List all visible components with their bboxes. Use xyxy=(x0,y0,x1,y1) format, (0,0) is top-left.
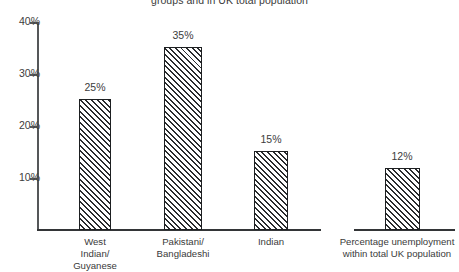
x-axis-category-label: Indian xyxy=(231,236,311,248)
bar-value-label: 25% xyxy=(65,82,125,93)
category-label-line: Indian xyxy=(231,236,311,248)
y-axis-tick-20: 20% xyxy=(0,126,40,128)
bar-chart: groups and in UK total population 40% 30… xyxy=(0,0,459,272)
category-label-line: Pakistani/ xyxy=(137,236,229,248)
bar-value-label: 12% xyxy=(372,151,432,162)
category-label-line: Percentage unemployment xyxy=(336,236,458,248)
x-axis-category-label: Percentage unemployment within total UK … xyxy=(336,236,458,260)
bar-indian[interactable] xyxy=(254,151,288,230)
x-axis-category-label: Pakistani/ Bangladeshi xyxy=(137,236,229,260)
category-label-line: Bangladeshi xyxy=(137,248,229,260)
category-label-line: within total UK population xyxy=(336,248,458,260)
bar-uk-total-population[interactable] xyxy=(385,168,420,230)
bar-pakistani-bangladeshi[interactable] xyxy=(164,47,202,230)
bar-value-label: 35% xyxy=(153,30,213,41)
bar-west-indian-guyanese[interactable] xyxy=(79,99,111,230)
x-axis-category-label: West Indian/ Guyanese xyxy=(50,236,140,271)
y-axis-tick-label: 40% xyxy=(12,16,40,26)
y-axis-tick-30: 30% xyxy=(0,74,40,76)
y-axis-tick-10: 10% xyxy=(0,178,40,180)
category-label-line: West xyxy=(50,236,140,248)
category-label-line: Indian/ xyxy=(50,248,140,260)
y-axis-tick-40: 40% xyxy=(0,22,40,24)
y-axis-tick-label: 20% xyxy=(12,120,40,130)
chart-title: groups and in UK total population xyxy=(0,0,459,6)
y-axis-tick-label: 30% xyxy=(12,68,40,78)
category-label-line: Guyanese xyxy=(50,260,140,272)
y-axis-tick-label: 10% xyxy=(12,172,40,182)
bar-value-label: 15% xyxy=(241,134,301,145)
